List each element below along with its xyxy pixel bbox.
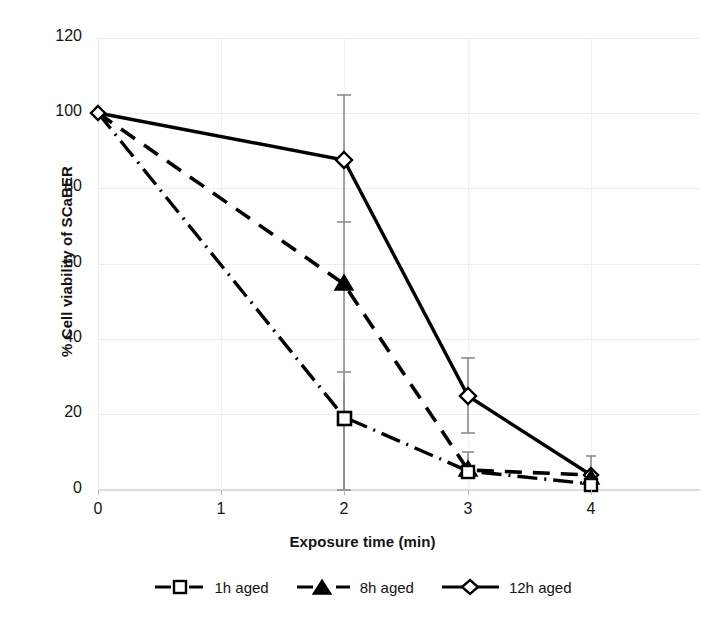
chart-figure: 120 100 80 60 40 20 0 0 1 2 3 4 Exposure… [0, 0, 725, 631]
y-tick-label-0: 0 [34, 479, 82, 497]
error-bars [337, 95, 596, 490]
legend-swatch-filled-triangle-dashed [295, 578, 353, 596]
legend-item-12h-aged: 12h aged [440, 578, 572, 596]
y-axis-title: % Cell viability of SCaBER [58, 62, 75, 462]
legend-item-1h-aged: 1h aged [153, 578, 268, 596]
legend-label-8h-aged: 8h aged [360, 579, 414, 596]
legend-item-8h-aged: 8h aged [295, 578, 414, 596]
chart-legend: 1h aged 8h aged 12h aged [0, 578, 725, 596]
legend-swatch-open-square-dashdot [153, 578, 207, 596]
x-axis-title: Exposure time (min) [0, 533, 725, 550]
x-tick-label-3: 3 [448, 500, 488, 518]
x-tick-label-1: 1 [201, 500, 241, 518]
x-tick-label-4: 4 [571, 500, 611, 518]
legend-label-1h-aged: 1h aged [214, 579, 268, 596]
x-tick-label-2: 2 [324, 500, 364, 518]
legend-swatch-open-diamond-solid [440, 578, 502, 596]
y-tick-label-120: 120 [34, 27, 82, 45]
legend-label-12h-aged: 12h aged [509, 579, 572, 596]
x-tick-label-0: 0 [78, 500, 118, 518]
axis-tick-marks [98, 490, 591, 495]
